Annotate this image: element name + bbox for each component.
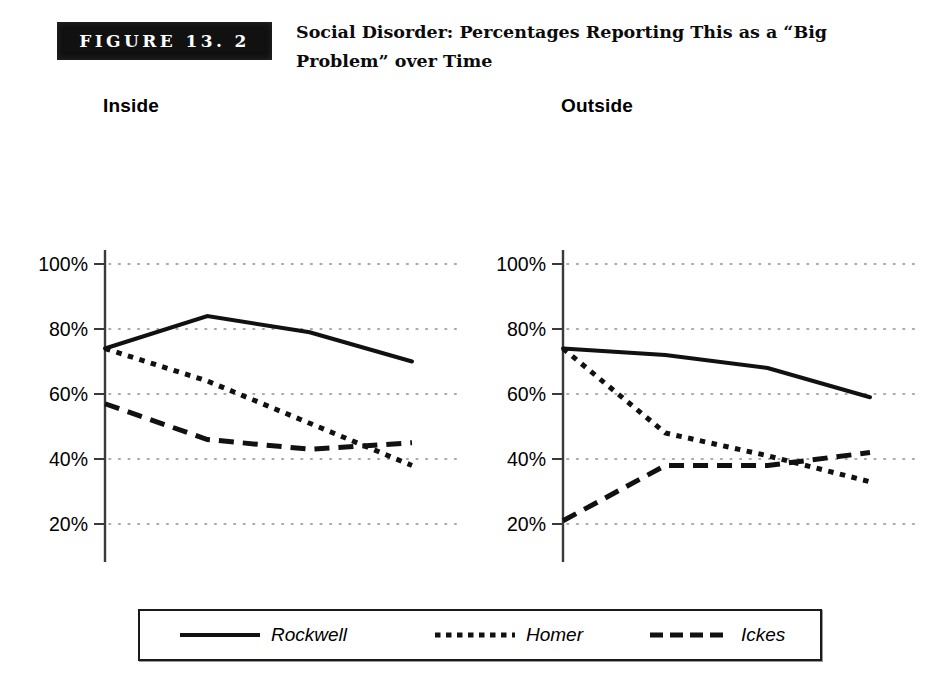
y-axis-tick-label: 80% — [49, 318, 88, 340]
y-axis-tick-label: 100% — [38, 253, 88, 275]
legend-item-ickes: Ickes — [650, 611, 785, 659]
legend-swatch-dotted — [435, 628, 515, 642]
legend-swatch-dashed — [650, 628, 730, 642]
y-axis-tick-label: 40% — [49, 448, 88, 470]
y-axis-tick-label: 40% — [507, 448, 546, 470]
chart-panel-outside: Outside 0%20%40%60%80%100%May1994Jan1995… — [458, 92, 933, 562]
series-line-rockwell — [105, 316, 412, 362]
series-line-rockwell — [563, 349, 870, 398]
series-line-ickes — [105, 404, 412, 450]
legend-item-homer: Homer — [435, 611, 583, 659]
y-axis-tick-label: 80% — [507, 318, 546, 340]
figure-number-label: FIGURE 13. 2 — [57, 22, 272, 60]
legend-item-rockwell: Rockwell — [180, 611, 347, 659]
figure-number-badge: FIGURE 13. 2 — [57, 22, 272, 60]
chart-panel-inside: Inside 0%20%40%60%80%100%May1994Jan1995M… — [0, 92, 470, 562]
legend-label-homer: Homer — [526, 624, 583, 646]
y-axis-tick-label: 100% — [496, 253, 546, 275]
figure-header: FIGURE 13. 2 Social Disorder: Percentage… — [0, 0, 933, 92]
chart-inside-plot: 0%20%40%60%80%100%May1994Jan1995May1995D… — [0, 92, 470, 562]
chart-legend: Rockwell Homer Ickes — [138, 609, 822, 661]
legend-label-rockwell: Rockwell — [271, 624, 347, 646]
chart-outside-plot: 0%20%40%60%80%100%May1994Jan1995May1995D… — [458, 92, 933, 562]
series-line-ickes — [563, 453, 870, 521]
y-axis-tick-label: 60% — [507, 383, 546, 405]
series-line-homer — [563, 349, 870, 482]
y-axis-tick-label: 20% — [507, 513, 546, 535]
legend-swatch-solid — [180, 628, 260, 642]
figure-title: Social Disorder: Percentages Reporting T… — [296, 18, 856, 76]
legend-label-ickes: Ickes — [741, 624, 785, 646]
y-axis-tick-label: 20% — [49, 513, 88, 535]
y-axis-tick-label: 60% — [49, 383, 88, 405]
